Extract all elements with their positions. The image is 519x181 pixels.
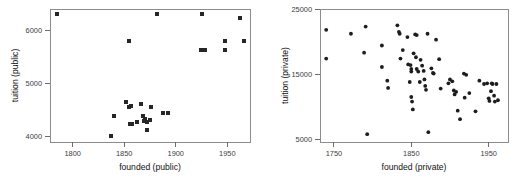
data-point: [410, 100, 414, 104]
data-point: [406, 35, 410, 39]
data-point: [463, 96, 467, 100]
data-point: [485, 81, 489, 85]
y-tick-label: 25000: [291, 5, 312, 14]
data-point: [380, 65, 384, 69]
data-point: [439, 87, 443, 91]
y-axis-title: tuition (public): [10, 49, 20, 103]
data-point: [324, 28, 328, 32]
data-point: [200, 12, 204, 16]
x-tick-label: 1950: [480, 149, 496, 158]
data-point: [166, 111, 170, 115]
data-point: [458, 117, 462, 121]
data-point: [349, 32, 353, 36]
x-axis-title: founded (public): [119, 162, 181, 172]
data-point: [324, 57, 328, 61]
data-point: [199, 48, 203, 52]
data-point: [129, 104, 133, 108]
data-point: [430, 66, 434, 70]
y-tick-label: 15000: [291, 70, 312, 79]
data-point: [494, 82, 498, 86]
data-point: [55, 12, 59, 16]
data-point: [364, 25, 368, 29]
data-point: [416, 70, 420, 74]
data-point: [423, 78, 427, 82]
data-point: [399, 57, 403, 61]
data-point: [223, 39, 227, 43]
plot-frame: [320, 9, 508, 142]
y-axis-title: tuition (private): [280, 47, 290, 104]
data-point: [474, 109, 478, 113]
data-point: [145, 128, 149, 132]
y-tick-label: 5000: [26, 79, 42, 88]
data-point: [409, 70, 413, 74]
data-point: [409, 63, 413, 67]
y-tick-label: 6000: [26, 26, 42, 35]
data-point: [411, 108, 415, 112]
data-point: [426, 130, 430, 134]
data-point: [450, 79, 454, 83]
public-scatter-plot: 4000500060001800185019001950founded (pub…: [0, 0, 260, 181]
data-point: [223, 48, 227, 52]
x-tick-label: 1800: [64, 149, 80, 158]
x-tick-label: 1900: [168, 149, 184, 158]
data-point: [423, 84, 427, 88]
data-point: [422, 69, 426, 73]
data-point: [155, 12, 159, 16]
data-point: [496, 98, 500, 102]
panel-private: 50001500025000175018501950founded (priva…: [260, 0, 519, 181]
data-point: [149, 105, 153, 109]
data-point: [365, 132, 369, 136]
data-point: [456, 109, 460, 113]
data-point: [434, 38, 438, 42]
data-point: [401, 48, 405, 52]
data-point: [386, 86, 390, 90]
data-point: [398, 32, 402, 36]
y-tick-label: 4000: [26, 132, 42, 141]
x-tick-label: 1850: [403, 149, 419, 158]
x-axis-title: founded (private): [382, 162, 447, 172]
x-tick-label: 1750: [326, 149, 342, 158]
data-point: [412, 51, 416, 55]
y-tick-label: 5000: [296, 135, 312, 144]
data-point: [477, 79, 481, 83]
data-point: [385, 79, 389, 83]
data-point: [203, 48, 207, 52]
data-point: [408, 80, 412, 84]
data-point: [420, 64, 424, 68]
private-scatter-plot: 50001500025000175018501950founded (priva…: [260, 0, 519, 181]
data-point: [488, 99, 492, 103]
data-point: [242, 39, 246, 43]
x-tick-label: 1950: [219, 149, 235, 158]
x-tick-label: 1850: [116, 149, 132, 158]
data-point: [447, 81, 451, 85]
data-point: [464, 73, 468, 77]
data-point: [161, 111, 165, 115]
data-point: [148, 118, 152, 122]
data-point: [491, 82, 495, 86]
data-point: [424, 88, 428, 92]
data-point: [432, 72, 436, 76]
data-point: [454, 90, 458, 94]
data-point: [414, 55, 418, 59]
panel-public: 4000500060001800185019001950founded (pub…: [0, 0, 260, 181]
data-point: [238, 16, 242, 20]
data-point: [139, 102, 143, 106]
data-point: [437, 57, 441, 61]
data-point: [380, 44, 384, 48]
scatter-figure: 4000500060001800185019001950founded (pub…: [0, 0, 519, 181]
data-point: [124, 100, 128, 104]
data-point: [467, 91, 471, 95]
data-point: [492, 94, 496, 98]
data-point: [109, 134, 113, 138]
data-point: [419, 58, 423, 62]
data-point: [130, 122, 134, 126]
data-point: [112, 114, 116, 118]
data-point: [362, 51, 366, 55]
data-point: [418, 80, 422, 84]
data-point: [127, 39, 131, 43]
data-point: [135, 120, 139, 124]
data-point: [426, 32, 430, 36]
data-point: [409, 95, 413, 99]
data-point: [415, 33, 419, 37]
data-point: [395, 23, 399, 27]
